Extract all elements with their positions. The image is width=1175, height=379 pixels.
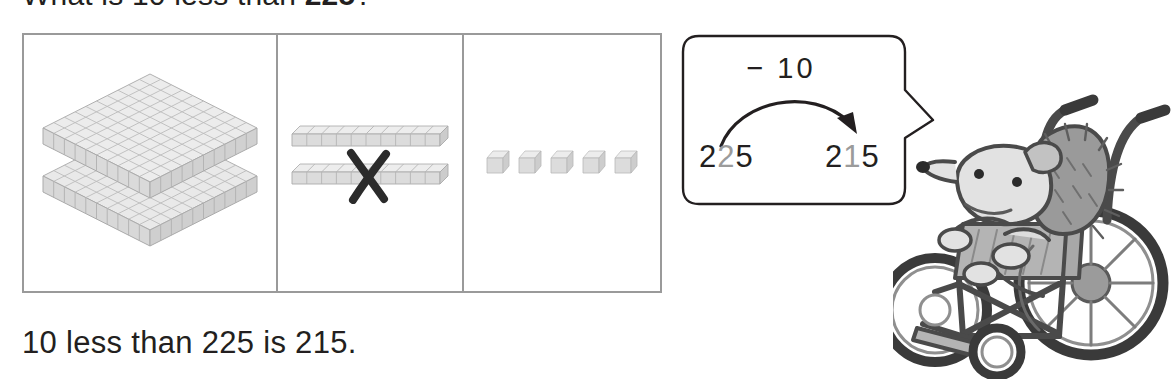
bubble-start-number: 225 [699,139,754,175]
ten-rod-icon [290,160,450,190]
start-ones-digit: 5 [736,139,754,174]
hedgehog-in-wheelchair-illustration [893,78,1175,379]
end-tens-digit: 1 [843,139,861,174]
unit-cube-icon [581,148,607,178]
bubble-end-number: 215 [825,139,880,175]
question-suffix: ? [355,0,372,11]
question-number: 225 [305,0,356,11]
speech-bubble: − 10 225 215 [681,34,907,206]
answer-sentence: 10 less than 225 is 215. [22,325,357,361]
ten-rods-group [290,118,450,208]
end-ones-digit: 5 [862,139,880,174]
ten-rod-icon [290,122,450,152]
unit-cube-icon [517,148,543,178]
bubble-operation-label: − 10 [681,52,881,85]
hundred-flat-icon [35,66,265,216]
hundred-flats-group [35,56,265,271]
base-ten-blocks-frame [22,33,662,293]
panel-ones [464,35,660,291]
unit-cube-icon [613,148,639,178]
start-hundreds-digit: 2 [699,139,717,174]
end-hundreds-digit: 2 [825,139,843,174]
panel-tens [278,35,463,291]
unit-cubes-group [485,148,639,178]
unit-cube-icon [485,148,511,178]
panel-hundreds [24,35,278,291]
page-question: What is 10 less than 225? [22,0,372,12]
worksheet-page: What is 10 less than 225? [0,0,1175,379]
start-tens-digit: 2 [717,139,735,174]
unit-cube-icon [549,148,575,178]
question-prefix: What is 10 less than [22,0,305,11]
